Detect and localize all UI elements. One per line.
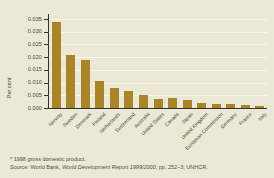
bar-france [241, 105, 250, 108]
x-tick-label: European Commission [183, 111, 223, 151]
bar-australia [139, 95, 148, 108]
plot-area [48, 19, 267, 109]
bar-japan [183, 100, 192, 108]
x-tick-label: Switzerland [114, 111, 137, 134]
source-title: World Development Report 1999/2000 [62, 164, 156, 170]
scanned-figure-page: Per cent 0.0000.0050.0100.0150.0200.0250… [0, 0, 274, 178]
bar-switzerland [124, 91, 133, 108]
bar-sweden [66, 55, 75, 108]
bar-united-kingdom [197, 103, 206, 108]
x-tick-label: United States [140, 111, 165, 136]
x-tick-label: Finland [91, 111, 107, 127]
bar-germany [226, 104, 235, 108]
gridline [49, 32, 267, 33]
x-tick-label: Netherlands [98, 111, 121, 134]
x-tick-label: Australia [133, 111, 151, 129]
bar-united-states [154, 99, 163, 108]
source-suffix: , pp. 252–3; UNHCR. [156, 164, 208, 170]
y-tick-label: 0.030 [12, 28, 42, 35]
y-tick-label: 0.010 [12, 79, 42, 86]
y-tick-label: 0.025 [12, 41, 42, 48]
gridline [49, 44, 267, 45]
y-tick-label: 0.020 [12, 54, 42, 61]
bar-denmark [81, 60, 90, 108]
gridline [49, 19, 267, 20]
source-prefix: Source: World Bank, [10, 164, 62, 170]
x-tick-label: Canada [163, 111, 180, 128]
footnote-gdp-note: * 1998 gross domestic product. [10, 155, 208, 163]
y-tick-label: 0.005 [12, 92, 42, 99]
x-tick-label: Sweden [61, 111, 78, 128]
y-tick-label: 0.015 [12, 66, 42, 73]
x-tick-label: Norway [47, 111, 63, 127]
y-tick-label: 0.035 [12, 16, 42, 23]
x-tick-label: Germany [219, 111, 238, 130]
x-tick-label: France [237, 111, 252, 126]
bar-finland [95, 81, 104, 108]
bar-norway [52, 22, 61, 108]
y-tick-label: 0.000 [12, 105, 42, 112]
source-note: Source: World Bank, World Development Re… [10, 163, 208, 171]
x-tick-label: United Kingdom [179, 111, 208, 140]
figure-footnotes: * 1998 gross domestic product. Source: W… [10, 155, 208, 171]
bar-european-commission [212, 104, 221, 108]
gridline [49, 57, 267, 58]
bar-netherlands [110, 88, 119, 108]
x-tick-label: Denmark [74, 111, 93, 130]
bar-canada [168, 98, 177, 108]
bar-italy [255, 106, 264, 108]
x-tick-label: Japan [180, 111, 194, 125]
x-tick-label: Italy [256, 111, 267, 122]
